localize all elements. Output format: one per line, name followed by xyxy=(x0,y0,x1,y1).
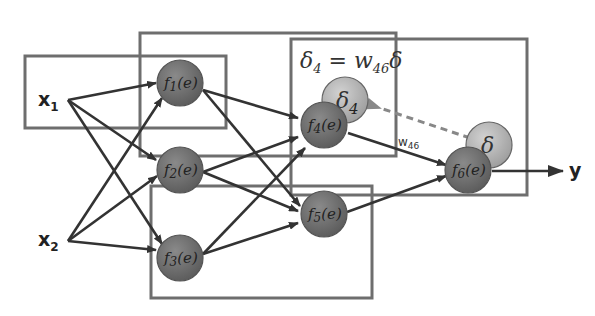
input-label-x2: x2 xyxy=(38,228,59,254)
svg-text:f6(e): f6(e) xyxy=(451,161,486,181)
input-label-x1: x1 xyxy=(38,88,59,114)
neuron-f4: f4(e) xyxy=(301,102,347,148)
neuron-f5: f5(e) xyxy=(301,191,347,237)
neuron-f6: f6(e) xyxy=(445,147,491,193)
backprop-dashed-arrow xyxy=(380,108,470,138)
hidden-edges xyxy=(203,90,563,254)
neuron-f2: f2(e) xyxy=(157,147,203,193)
svg-text:f3(e): f3(e) xyxy=(163,249,198,269)
output-label-y: y xyxy=(569,159,582,181)
neural-network-diagram: δ 4 δ f1(e) f2(e) f3(e) f4(e) f5(e) f6(e… xyxy=(0,0,595,316)
svg-text:f4(e): f4(e) xyxy=(307,116,342,136)
weight-label-w46: w46 xyxy=(398,135,420,151)
input-edges xyxy=(68,83,162,250)
neuron-f3: f3(e) xyxy=(157,235,203,281)
neuron-f1: f1(e) xyxy=(157,60,203,106)
delta-equation: δ4 = w46δ xyxy=(300,48,403,76)
svg-text:f5(e): f5(e) xyxy=(307,205,342,225)
svg-text:4: 4 xyxy=(348,100,359,118)
svg-text:f2(e): f2(e) xyxy=(163,161,198,181)
svg-text:f1(e): f1(e) xyxy=(163,74,198,94)
